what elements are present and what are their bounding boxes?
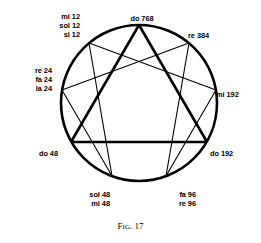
figure-caption-number: . 17 xyxy=(130,221,144,231)
node-label-do768-line1: do 768 xyxy=(118,14,166,23)
node-label-re24-line3: la 24 xyxy=(4,84,52,93)
node-label-do48-line1: do 48 xyxy=(16,149,58,158)
node-label-fa96: fa 96 re 96 xyxy=(152,190,196,208)
node-label-sol48: sol 48 mi 48 xyxy=(62,190,110,208)
node-label-re24-line2: fa 24 xyxy=(4,75,52,84)
node-label-do48: do 48 xyxy=(16,149,58,158)
enneagram-figure: do 768 re 384 mi 192 do 192 fa 96 re 96 … xyxy=(0,0,261,243)
node-label-do192-line1: do 192 xyxy=(210,149,258,158)
inner-hexad xyxy=(62,43,216,176)
node-label-mi12-line1: mi 12 xyxy=(28,12,80,21)
node-label-mi192: mi 192 xyxy=(216,90,260,99)
node-label-sol48-line1: sol 48 xyxy=(62,190,110,199)
node-label-re384: re 384 xyxy=(188,31,234,40)
figure-caption-smallcaps: IG xyxy=(123,223,130,231)
node-label-re384-line1: re 384 xyxy=(188,31,234,40)
figure-caption: FIG. 17 xyxy=(0,221,261,231)
node-label-fa96-line1: fa 96 xyxy=(152,190,196,199)
node-label-mi12: mi 12 sol 12 si 12 xyxy=(28,12,80,40)
node-label-re24-line1: re 24 xyxy=(4,66,52,75)
node-label-mi192-line1: mi 192 xyxy=(216,90,260,99)
triangle-edge-do768-do192 xyxy=(139,25,207,142)
triangle-edge-do48-do768 xyxy=(71,25,139,142)
node-label-do192: do 192 xyxy=(210,149,258,158)
node-label-do768: do 768 xyxy=(118,14,166,23)
enneagram-circle xyxy=(61,25,217,181)
node-label-mi12-line3: si 12 xyxy=(28,30,80,39)
node-label-re24: re 24 fa 24 la 24 xyxy=(4,66,52,94)
node-label-sol48-line2: mi 48 xyxy=(62,199,110,208)
node-label-fa96-line2: re 96 xyxy=(152,199,196,208)
node-label-mi12-line2: sol 12 xyxy=(28,21,80,30)
